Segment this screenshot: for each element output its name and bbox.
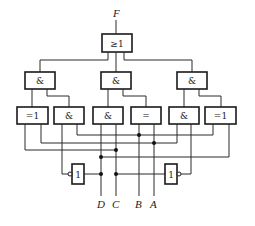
xor-gate-1-symbol: =1 [26, 111, 39, 121]
wire-inv2-out [181, 124, 191, 174]
and-gate-3-symbol: & [188, 76, 196, 86]
or-gate: ≥1 [102, 34, 132, 52]
xor-gate-2: =1 [205, 107, 236, 124]
inverter-2-symbol: 1 [168, 170, 174, 180]
input-label-b: B [135, 198, 142, 210]
junction-a [152, 141, 156, 145]
and-gate-2-symbol: & [112, 76, 120, 86]
inverter-1-bubble [68, 172, 72, 176]
junction-c-bus [114, 148, 118, 152]
input-label-c: C [112, 198, 120, 210]
wire-or-and1 [40, 52, 108, 72]
junction-c-inv [114, 172, 118, 176]
inverter-1: 1 [68, 164, 84, 184]
output-label-f: F [112, 7, 120, 19]
wire-and3-xor2 [199, 89, 221, 107]
and-gate-5-symbol: & [104, 111, 112, 121]
and-gate-6-symbol: & [180, 111, 188, 121]
xnor-gate-symbol: = [142, 111, 150, 121]
xor-gate-2-symbol: =1 [214, 111, 227, 121]
junction-d-bus [99, 155, 103, 159]
junction-d-inv [99, 172, 103, 176]
and-gate-1: & [25, 72, 55, 89]
wire-inv1-in [62, 124, 68, 174]
xor-gate-1: =1 [17, 107, 48, 124]
and-gate-5: & [93, 107, 123, 124]
logic-circuit-diagram: F ≥1 & & & =1 & & = [0, 0, 255, 226]
and-gate-2: & [101, 72, 131, 89]
wire-or-and3 [124, 52, 192, 72]
and-gate-4: & [54, 107, 84, 124]
xnor-gate: = [131, 107, 161, 124]
inverter-2-bubble [177, 172, 181, 176]
and-gate-4-symbol: & [65, 111, 73, 121]
wire-bus-a [41, 124, 177, 143]
inverter-2: 1 [165, 164, 181, 184]
input-label-d: D [96, 198, 105, 210]
wire-bus-d [101, 124, 229, 157]
and-gate-6: & [169, 107, 199, 124]
wire-and1-and-a [47, 89, 69, 107]
and-gate-1-symbol: & [36, 76, 44, 86]
wire-bus-b [77, 124, 213, 135]
junction-b [137, 133, 141, 137]
input-label-a: A [149, 198, 157, 210]
or-gate-symbol: ≥1 [110, 39, 123, 49]
wire-bus-c [25, 124, 116, 150]
inverter-1-symbol: 1 [75, 170, 81, 180]
and-gate-3: & [177, 72, 207, 89]
wire-and2-xnor [123, 89, 146, 107]
